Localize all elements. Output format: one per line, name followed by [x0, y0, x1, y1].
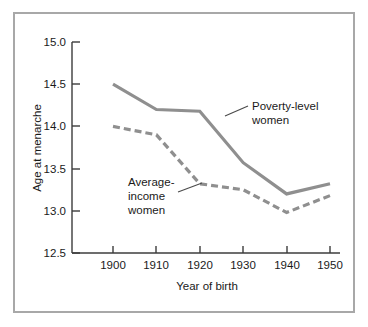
y-tick-labels: 15.0 14.5 14.0 13.5 13.0 12.5 — [44, 36, 66, 259]
x-tick-marks — [113, 246, 330, 253]
poverty-leader-line — [225, 106, 248, 116]
axes-group — [72, 42, 340, 253]
y-label-12-5: 12.5 — [44, 247, 66, 259]
y-label-13-0: 13.0 — [44, 205, 66, 217]
y-label-14-0: 14.0 — [44, 120, 66, 132]
figure-container: 15.0 14.5 14.0 13.5 13.0 12.5 1900 1910 … — [0, 0, 368, 327]
x-label-1930: 1930 — [230, 259, 256, 271]
x-label-1920: 1920 — [187, 259, 213, 271]
average-label-line1: Average- — [128, 176, 175, 188]
y-label-13-5: 13.5 — [44, 163, 66, 175]
annotation-poverty-level: Poverty-level women — [251, 100, 318, 126]
y-label-14-5: 14.5 — [44, 78, 66, 90]
average-label-line2: income — [128, 190, 165, 202]
x-tick-labels: 1900 1910 1920 1930 1940 1950 — [100, 259, 343, 271]
annotation-average-income: Average- income women — [127, 176, 175, 216]
chart-svg: 15.0 14.5 14.0 13.5 13.0 12.5 1900 1910 … — [0, 0, 368, 327]
x-axis-title: Year of birth — [176, 280, 238, 292]
average-leader-line — [178, 183, 202, 192]
y-axis-title: Age at menarche — [31, 104, 43, 192]
x-label-1940: 1940 — [274, 259, 300, 271]
x-label-1950: 1950 — [317, 259, 343, 271]
average-label-line3: women — [127, 204, 165, 216]
poverty-label-line2: women — [251, 114, 289, 126]
y-label-15-0: 15.0 — [44, 36, 66, 48]
poverty-label-line1: Poverty-level — [252, 100, 318, 112]
x-label-1900: 1900 — [100, 259, 126, 271]
x-label-1910: 1910 — [143, 259, 169, 271]
y-tick-marks — [72, 42, 80, 253]
